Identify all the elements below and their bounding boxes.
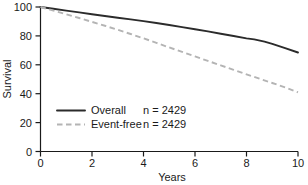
y-tick-label-20: 20: [20, 117, 32, 129]
x-axis-title: Years: [158, 171, 186, 183]
y-tick-label-100: 100: [14, 1, 32, 13]
x-tick-label-10: 10: [292, 157, 304, 169]
x-tick-label-4: 4: [140, 157, 146, 169]
x-tick-label-6: 6: [192, 157, 198, 169]
y-axis-ticks: [36, 7, 41, 152]
chart-legend: Overall n = 2429 Event-free n = 2429: [57, 104, 186, 130]
x-tick-label-0: 0: [37, 157, 43, 169]
legend-value-overall: n = 2429: [143, 104, 186, 116]
legend-value-event-free: n = 2429: [143, 118, 186, 130]
y-tick-label-0: 0: [26, 146, 32, 158]
plot-area: 100 80 60 40 20 0 0 2 4 6 8 10 Years Sur…: [0, 0, 308, 185]
legend-label-event-free: Event-free: [91, 118, 142, 130]
x-tick-label-8: 8: [243, 157, 249, 169]
legend-label-overall: Overall: [91, 104, 126, 116]
event-free-survival-curve: [41, 7, 299, 92]
survival-chart: 100 80 60 40 20 0 0 2 4 6 8 10 Years Sur…: [0, 0, 308, 185]
y-axis-title: Survival: [1, 59, 13, 98]
x-tick-label-2: 2: [89, 157, 95, 169]
y-tick-label-80: 80: [20, 30, 32, 42]
overall-survival-curve: [41, 7, 299, 53]
x-axis-ticks: [41, 152, 299, 157]
y-tick-label-60: 60: [20, 59, 32, 71]
y-tick-label-40: 40: [20, 88, 32, 100]
